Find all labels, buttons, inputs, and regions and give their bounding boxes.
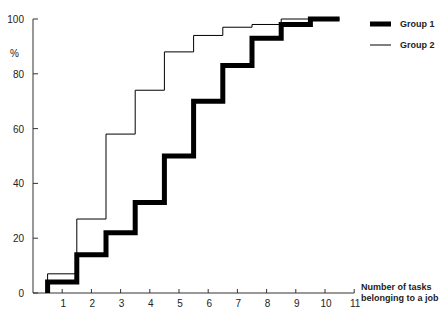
y-tick-label: 20 — [13, 233, 25, 244]
legend-label-2: Group 2 — [400, 40, 435, 50]
x-tick-label: 6 — [206, 298, 212, 309]
x-tick-label: 1 — [60, 298, 66, 309]
y-tick-label: 60 — [13, 124, 25, 135]
x-tick-label: 3 — [119, 298, 125, 309]
x-tick-label: 2 — [90, 298, 96, 309]
y-tick-label: 40 — [13, 178, 25, 189]
legend-label-1: Group 1 — [400, 19, 435, 29]
x-tick-label: 8 — [265, 298, 271, 309]
x-tick-label: 7 — [236, 298, 242, 309]
y-tick-label: 100 — [7, 14, 24, 25]
x-tick-label: 4 — [148, 298, 154, 309]
series-group-1 — [48, 19, 340, 293]
x-tick-label: 10 — [320, 298, 332, 309]
y-tick-label: 0 — [18, 288, 24, 299]
cumulative-step-chart: 0204060801001234567891011 Group 1Group 2… — [0, 0, 445, 315]
legend: Group 1Group 2 — [370, 19, 435, 50]
x-axis-label: belonging to a job — [361, 293, 439, 303]
axes: 0204060801001234567891011 — [7, 14, 361, 309]
x-axis-label: Number of tasks — [361, 282, 432, 292]
series-lines — [48, 19, 340, 293]
x-tick-label: 11 — [350, 298, 361, 309]
y-axis-label: % — [10, 48, 19, 59]
x-tick-label: 5 — [177, 298, 183, 309]
x-tick-label: 9 — [294, 298, 300, 309]
y-tick-label: 80 — [13, 69, 25, 80]
